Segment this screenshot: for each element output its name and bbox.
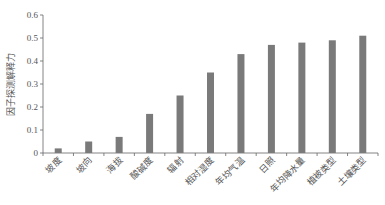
x-tick-label: 坡度: [43, 155, 64, 176]
y-tick-label: 0: [34, 148, 39, 158]
x-axis: [43, 153, 378, 156]
x-tick-labels: 坡度坡向海拔酸碱度辐射相对湿度年均气温日照年均降水量植被类型土壤类型: [43, 155, 368, 195]
bar-series: [55, 36, 367, 153]
y-tick-label: 0.2: [27, 102, 38, 112]
y-tick-label: 0.6: [27, 10, 39, 20]
bar: [207, 73, 214, 154]
x-tick-label: 辐射: [165, 155, 186, 176]
bar: [55, 148, 62, 153]
y-tick-label: 0.4: [27, 56, 39, 66]
y-axis: 00.10.20.30.40.50.6: [27, 10, 43, 158]
bar: [329, 40, 336, 153]
bar: [298, 43, 305, 153]
y-tick-label: 0.3: [27, 79, 39, 89]
bar: [116, 137, 123, 153]
bar: [85, 142, 92, 154]
bar-chart: 因子探测解释力 00.10.20.30.40.50.6 坡度坡向海拔酸碱度辐射相…: [0, 0, 385, 205]
x-tick-label: 相对湿度: [183, 155, 216, 188]
x-tick-label: 日照: [257, 155, 277, 175]
y-tick-label: 0.1: [27, 125, 38, 135]
bar: [237, 54, 244, 153]
x-tick-label: 年均气温: [213, 155, 246, 188]
x-tick-label: 海拔: [104, 155, 125, 176]
bar: [359, 36, 366, 153]
bar: [268, 45, 275, 153]
x-tick-label: 土壤类型: [335, 155, 368, 188]
bar: [146, 114, 153, 153]
x-tick-label: 酸碱度: [128, 155, 155, 182]
bar: [177, 96, 184, 154]
y-tick-label: 0.5: [27, 33, 39, 43]
x-tick-label: 坡向: [74, 155, 95, 176]
x-tick-label: 植被类型: [304, 155, 337, 188]
y-axis-label: 因子探测解释力: [5, 53, 16, 116]
